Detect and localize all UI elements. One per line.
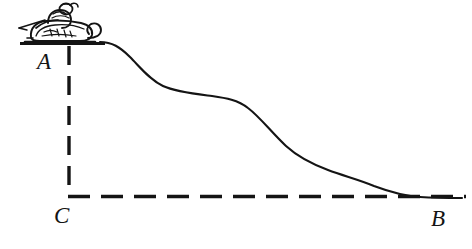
sled-with-rider-icon <box>19 3 101 42</box>
physics-figure: A C B <box>0 0 472 249</box>
point-label-a: A <box>37 50 51 73</box>
hill-slope-curve <box>100 42 462 198</box>
figure-canvas <box>0 0 472 249</box>
point-label-b: B <box>431 207 445 230</box>
point-label-c: C <box>54 204 69 227</box>
